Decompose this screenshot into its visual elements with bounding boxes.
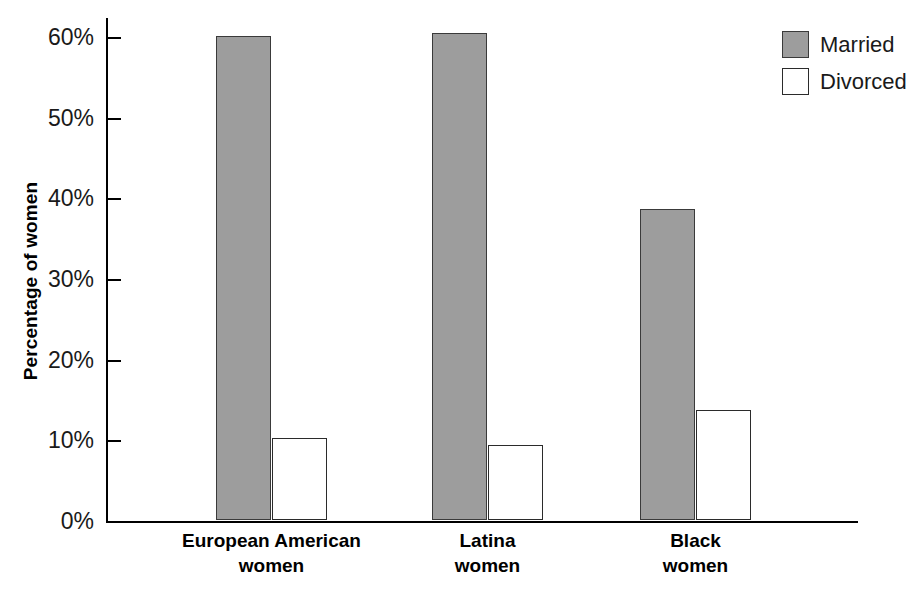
bar-divorced-group-2: [696, 410, 751, 520]
chart-legend: MarriedDivorced: [782, 26, 910, 100]
y-axis-title: Percentage of women: [20, 116, 42, 446]
legend-item-married: Married: [782, 26, 910, 63]
tick-mark: [108, 37, 121, 39]
y-tick-label: 40%: [48, 185, 94, 212]
tick-mark: [108, 440, 121, 442]
legend-label: Married: [820, 32, 895, 58]
legend-swatch-divorced: [782, 68, 809, 95]
legend-item-divorced: Divorced: [782, 63, 910, 100]
bar-married-group-2: [640, 209, 695, 520]
group-label-line1: Black: [670, 530, 721, 551]
tick-mark: [108, 360, 121, 362]
x-axis-line: [106, 521, 858, 523]
y-tick-label: 10%: [48, 427, 94, 454]
y-tick-label: 50%: [48, 104, 94, 131]
group-label-line1: European American: [182, 530, 361, 551]
bar-married-group-0: [216, 36, 271, 520]
legend-label: Divorced: [820, 69, 907, 95]
tick-mark: [108, 279, 121, 281]
group-label-2: Blackwomen: [546, 528, 846, 578]
y-tick-label: 30%: [48, 266, 94, 293]
bar-divorced-group-0: [272, 438, 327, 520]
y-axis-line: [106, 18, 108, 523]
y-tick-label: 60%: [48, 24, 94, 51]
bar-married-group-1: [432, 33, 487, 520]
legend-swatch-married: [782, 31, 809, 58]
y-tick-label: 20%: [48, 346, 94, 373]
tick-mark: [108, 118, 121, 120]
group-label-line2: women: [546, 553, 846, 578]
tick-mark: [108, 198, 121, 200]
y-tick-label: 0%: [61, 508, 94, 535]
bar-chart: Percentage of women 0%10%20%30%40%50%60%…: [0, 0, 910, 590]
plot-area: 0%10%20%30%40%50%60%: [106, 18, 858, 522]
bar-divorced-group-1: [488, 445, 543, 520]
group-label-line1: Latina: [460, 530, 516, 551]
